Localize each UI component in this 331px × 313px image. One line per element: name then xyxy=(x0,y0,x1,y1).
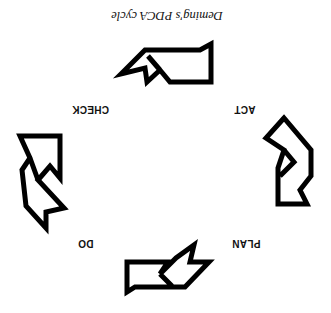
arrow-left-icon xyxy=(20,136,64,228)
pdca-diagram: Deming's PDCA cycle PLAN DO CHECK ACT xyxy=(0,0,331,313)
arrow-top-icon xyxy=(121,44,211,82)
cycle-arrows xyxy=(0,0,331,313)
arrow-right-icon xyxy=(266,118,311,204)
arrow-bottom-icon xyxy=(127,245,209,292)
